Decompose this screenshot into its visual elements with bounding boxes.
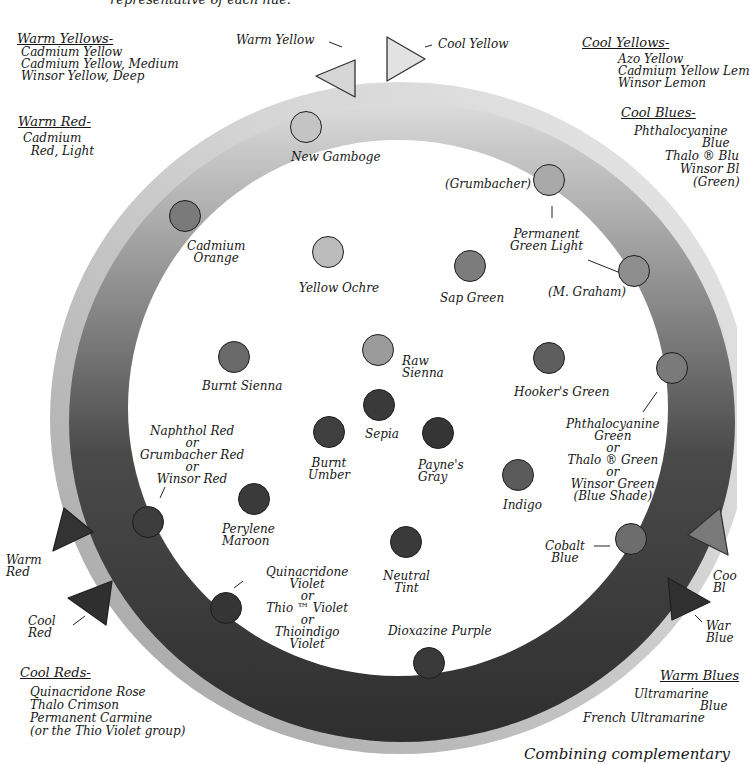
group-item: French Ultramarine <box>583 712 705 724</box>
label-m-graham: (M. Graham) <box>548 286 626 298</box>
swatch-phthalo-green <box>656 352 688 384</box>
group-heading: Warm Yellows- <box>17 33 113 45</box>
label-sap-green: Sap Green <box>440 292 504 304</box>
label-naphthol-red: Naphthol Red or Grumbacher Red or Winsor… <box>140 425 244 485</box>
label-yellow-ochre: Yellow Ochre <box>299 282 379 294</box>
group-heading: Cool Yellows- <box>582 37 669 49</box>
swatch-indigo <box>502 459 534 491</box>
swatch-perylene-maroon <box>238 483 270 515</box>
marker-label-cool-blue: Coo Bl <box>713 570 737 594</box>
group-heading: Warm Red- <box>18 116 91 128</box>
label-sepia: Sepia <box>365 428 399 440</box>
swatch-quinacridone-violet <box>210 592 242 624</box>
swatch-new-gamboge <box>290 111 322 143</box>
label-dioxazine-purple: Dioxazine Purple <box>388 625 492 637</box>
swatch-burnt-umber <box>313 416 345 448</box>
header-fragment: representative of each hue. <box>110 0 291 6</box>
swatch-raw-sienna <box>362 334 394 366</box>
label-hookers-green: Hooker's Green <box>514 386 610 398</box>
label-indigo: Indigo <box>503 499 542 511</box>
label-permanent-green-light: Permanent Green Light <box>510 228 583 252</box>
swatch-cadmium-orange <box>169 200 201 232</box>
label-paynes-gray: Payne's Gray <box>418 459 464 483</box>
label-cadmium-orange: Cadmium Orange <box>187 240 245 264</box>
swatch-sap-green <box>454 250 486 282</box>
swatch-dioxazine-purple <box>413 647 445 679</box>
label-raw-sienna: Raw Sienna <box>402 355 444 379</box>
label-burnt-umber: Burnt Umber <box>308 457 350 481</box>
label-perylene-maroon: Perylene Maroon <box>222 523 275 547</box>
label-phthalo-green: Phthalocyanine Green or Thalo ® Green or… <box>566 418 660 502</box>
group-heading: Cool Reds- <box>20 667 91 679</box>
footer-fragment: Combining complementary <box>524 748 730 760</box>
wheel-center <box>128 140 668 676</box>
group-item: Quinacridone Rose <box>30 686 146 698</box>
swatch-neutral-tint <box>390 526 422 558</box>
swatch-naphthol-red <box>132 506 164 538</box>
group-item: Permanent Carmine <box>30 712 152 724</box>
group-item: Winsor Yellow, Deep <box>21 70 145 82</box>
group-item: Thalo Crimson <box>30 699 119 711</box>
label-cobalt-blue: Cobalt Blue <box>545 540 585 564</box>
swatch-hookers-green <box>533 342 565 374</box>
group-item: Winsor Lemon <box>618 77 706 89</box>
swatch-cobalt-blue <box>615 523 647 555</box>
swatch-burnt-sienna <box>218 341 250 373</box>
label-grumbacher: (Grumbacher) <box>445 178 531 190</box>
group-item: Winsor Bl <box>680 163 739 175</box>
marker-label-warm-blue: War Blue <box>706 620 734 644</box>
group-heading: Cool Blues- <box>621 107 696 119</box>
label-burnt-sienna: Burnt Sienna <box>202 380 282 392</box>
marker-label-warm-red: Warm Red <box>6 554 42 578</box>
marker-label-cool-yellow: Cool Yellow <box>438 38 508 50</box>
swatch-paynes-gray <box>422 417 454 449</box>
group-item: Blue <box>702 137 730 149</box>
swatch-grumbacher-green <box>533 164 565 196</box>
marker-label-cool-red: Cool Red <box>28 615 55 639</box>
label-new-gamboge: New Gamboge <box>291 151 381 163</box>
cool-yellow-triangle <box>387 37 425 81</box>
group-item: Thalo ® Blu <box>665 150 739 162</box>
group-item: Red, Light <box>23 145 94 157</box>
group-item: Cadmium <box>23 132 81 144</box>
marker-label-warm-yellow: Warm Yellow <box>236 34 315 46</box>
swatch-sepia <box>363 389 395 421</box>
group-item: Ultramarine <box>634 688 709 700</box>
label-quinacridone-violet: Quinacridone Violet or Thio ™ Violet or … <box>266 566 348 650</box>
swatch-yellow-ochre <box>312 236 344 268</box>
swatch-m-graham-green <box>618 255 650 287</box>
group-heading: Warm Blues <box>660 670 739 682</box>
label-neutral-tint: Neutral Tint <box>383 570 430 594</box>
group-item: (or the Thio Violet group) <box>30 725 185 737</box>
cool-red-triangle <box>68 581 112 625</box>
group-item: (Green) <box>693 176 740 188</box>
